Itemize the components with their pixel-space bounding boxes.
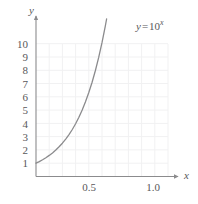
y-tick-label-7: 7	[8, 79, 28, 90]
curve-equation-label: y=10x	[136, 21, 164, 32]
x-tick-label-1-0: 1.0	[138, 182, 168, 193]
exponential-function-figure: 10 9 8 7 6 5 4 3 2 1 0.5 1.0 y x y=10x	[0, 0, 198, 204]
y-tick-label-5: 5	[8, 105, 28, 116]
y-tick-label-8: 8	[8, 65, 28, 76]
exponential-curve	[36, 19, 107, 163]
y-tick-label-9: 9	[8, 52, 28, 63]
curve-label-equals: =	[141, 20, 149, 32]
curve-label-base: 10	[149, 20, 160, 32]
x-tick-label-0-5: 0.5	[74, 182, 104, 193]
y-tick-label-1: 1	[8, 158, 28, 169]
y-tick-label-2: 2	[8, 145, 28, 156]
y-tick-label-6: 6	[8, 92, 28, 103]
y-tick-label-4: 4	[8, 119, 28, 130]
x-axis-name: x	[184, 170, 189, 181]
y-axis-name: y	[29, 5, 34, 16]
y-tick-label-3: 3	[8, 132, 28, 143]
curve-label-exponent: x	[160, 18, 164, 27]
plot-canvas	[0, 0, 198, 204]
y-tick-label-10: 10	[8, 39, 28, 50]
